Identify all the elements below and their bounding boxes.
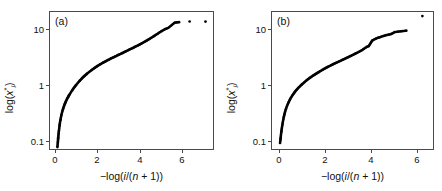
panel-a-x-tickmark-0 — [55, 150, 56, 153]
panel-b: log(x*i) 10 1 0.1 (b) 0 2 4 6 −log(i/(n … — [221, 0, 442, 191]
panel-b-x-tickmark-0 — [279, 150, 280, 153]
panel-b-x-tick-2: 2 — [313, 154, 337, 165]
panel-a: log(x*i) 10 1 0.1 (a) 0 2 4 6 −log(i/(n … — [0, 0, 221, 191]
panel-a-x-tickmark-2 — [97, 150, 98, 153]
panel-a-x-tickmark-6 — [182, 150, 183, 153]
panel-b-x-tick-4: 4 — [359, 154, 383, 165]
panel-b-y-tick-0.1: 0.1 — [238, 136, 266, 147]
panel-b-y-tick-10: 10 — [238, 24, 266, 35]
panel-b-x-tickmark-4 — [371, 150, 372, 153]
panel-a-x-tick-6: 6 — [170, 154, 194, 165]
panel-a-data-points — [50, 12, 214, 150]
panel-a-y-tick-10: 10 — [16, 24, 44, 35]
panel-b-x-tickmark-2 — [325, 150, 326, 153]
panel-a-x-tick-4: 4 — [128, 154, 152, 165]
panel-b-plot-area: (b) — [271, 11, 434, 150]
panel-a-x-tick-2: 2 — [85, 154, 109, 165]
panel-a-x-tickmark-4 — [140, 150, 141, 153]
panel-b-y-tick-1: 1 — [238, 80, 266, 91]
panel-a-plot-area: (a) — [49, 11, 214, 150]
panel-a-y-tick-0.1: 0.1 — [16, 136, 44, 147]
panel-b-data-points — [272, 12, 434, 150]
panel-a-x-tick-0: 0 — [43, 154, 67, 165]
figure-container: log(x*i) 10 1 0.1 (a) 0 2 4 6 −log(i/(n … — [0, 0, 442, 191]
panel-b-x-axis-label: −log(i/(n + 1)) — [271, 170, 434, 182]
panel-a-y-tick-1: 1 — [16, 80, 44, 91]
panel-b-x-tickmark-6 — [417, 150, 418, 153]
panel-a-x-axis-label: −log(i/(n + 1)) — [49, 170, 214, 182]
panel-b-x-tick-0: 0 — [267, 154, 291, 165]
panel-b-x-tick-6: 6 — [405, 154, 429, 165]
